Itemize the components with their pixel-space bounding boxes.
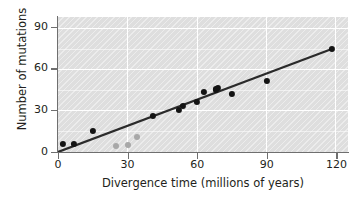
y-axis-tick-label: 0: [24, 146, 48, 157]
x-axis-tick-label: 30: [113, 159, 143, 170]
scatter-chart-figure: 03060900306090120 Divergence time (milli…: [0, 0, 358, 204]
y-axis-title: Number of mutations: [15, 0, 29, 139]
data-point: [134, 134, 140, 140]
regression-line: [58, 17, 348, 152]
plot-area: [58, 17, 348, 152]
data-point: [113, 143, 119, 149]
y-axis-tick: [51, 152, 57, 153]
x-axis-line: [57, 152, 349, 153]
y-axis-line: [57, 16, 58, 153]
data-point: [125, 142, 131, 148]
x-axis-tick-label: 0: [43, 159, 73, 170]
x-axis-tick-label: 120: [321, 159, 351, 170]
y-axis-tick: [51, 68, 57, 69]
x-axis-tick-label: 90: [252, 159, 282, 170]
x-axis-tick-label: 60: [182, 159, 212, 170]
y-axis-tick: [51, 110, 57, 111]
x-axis-title: Divergence time (millions of years): [58, 176, 348, 190]
y-axis-tick: [51, 27, 57, 28]
